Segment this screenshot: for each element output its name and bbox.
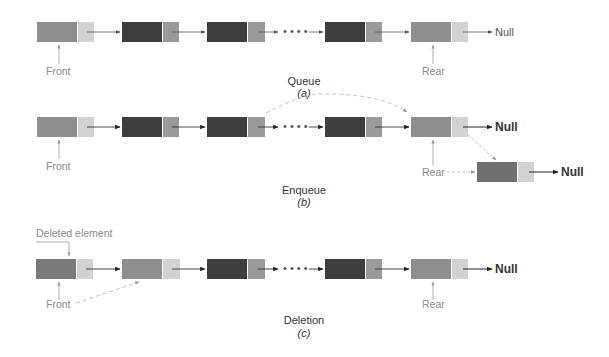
caption-sub: (b) xyxy=(297,196,311,208)
node-new-front xyxy=(122,259,180,279)
null-label: Null xyxy=(495,120,518,134)
caption-title: Deletion xyxy=(284,314,324,326)
caption-title: Queue xyxy=(287,75,320,87)
diagram-deletion: Deleted element • • • • Null xyxy=(36,227,518,339)
rear-label: Rear xyxy=(422,298,445,310)
dashed-transition-arrow xyxy=(266,94,407,113)
null-label: Null xyxy=(495,26,514,38)
node-4 xyxy=(325,259,382,279)
node-1 xyxy=(37,22,94,42)
ellipsis: • • • • xyxy=(283,25,308,37)
null-label: Null xyxy=(495,262,518,276)
node-rear xyxy=(411,22,468,42)
node-3 xyxy=(207,22,265,42)
diagram-enqueue: • • • • Null Null Front Rear Enqueue (b) xyxy=(37,117,584,208)
node-4 xyxy=(325,117,382,137)
front-label: Front xyxy=(46,298,71,310)
node-deleted xyxy=(36,259,93,279)
node-1 xyxy=(37,117,94,137)
node-3 xyxy=(207,259,265,279)
rear-label: Rear xyxy=(422,65,445,77)
front-label: Front xyxy=(46,160,71,172)
node-rear xyxy=(411,259,468,279)
new-null-label: Null xyxy=(561,165,584,179)
rear-label: Rear xyxy=(422,166,445,178)
front-label: Front xyxy=(46,65,71,77)
ellipsis: • • • • xyxy=(283,262,308,274)
ellipsis: • • • • xyxy=(283,120,308,132)
node-new-rear xyxy=(477,162,534,182)
caption-title: Enqueue xyxy=(282,184,326,196)
node-2 xyxy=(122,117,179,137)
node-4 xyxy=(325,22,382,42)
node-3 xyxy=(207,117,265,137)
queue-linked-list-diagram: • • • • Null Front Rear Queue (a) xyxy=(0,0,609,357)
diagram-queue: • • • • Null Front Rear Queue (a) xyxy=(37,22,514,99)
caption-sub: (c) xyxy=(298,327,311,339)
node-2 xyxy=(122,22,179,42)
caption-sub: (a) xyxy=(297,87,311,99)
node-old-rear xyxy=(411,117,468,137)
deleted-element-label: Deleted element xyxy=(36,227,113,239)
